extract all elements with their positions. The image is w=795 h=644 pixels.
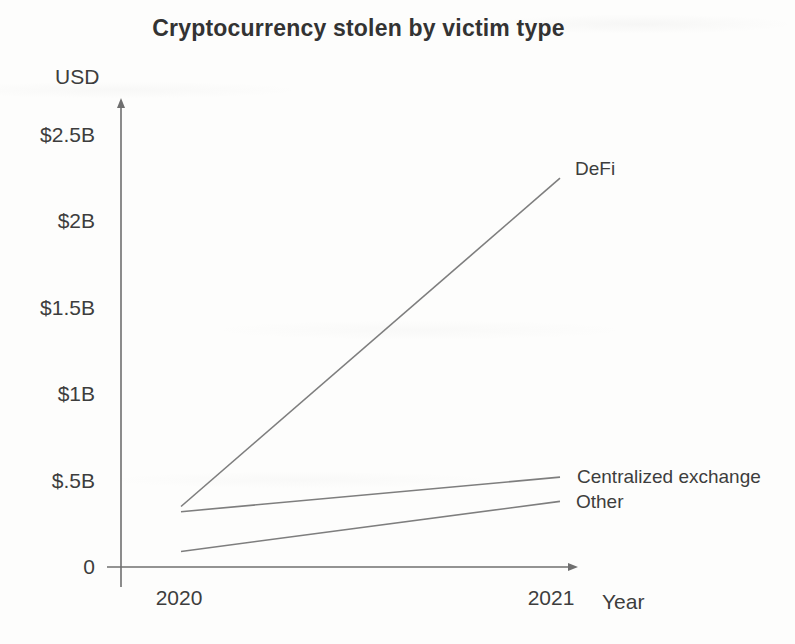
y-tick-label: $1B xyxy=(58,382,95,405)
y-tick-label: $2.5B xyxy=(40,123,95,146)
y-tick-label: $1.5B xyxy=(40,296,95,319)
scanned-chart-page: Cryptocurrency stolen by victim type USD… xyxy=(0,0,795,644)
x-tick-label: 2021 xyxy=(528,586,575,609)
series-label: Centralized exchange xyxy=(577,466,761,487)
series-label: DeFi xyxy=(575,158,615,179)
y-tick-label: $2B xyxy=(58,209,95,232)
x-axis-arrowhead-icon xyxy=(568,563,578,571)
series-line-defi xyxy=(181,178,560,506)
series-label: Other xyxy=(576,491,624,512)
x-tick-label: 2020 xyxy=(156,586,203,609)
y-axis-arrowhead-icon xyxy=(117,98,125,108)
series-line-centralized-exchange xyxy=(181,477,560,512)
y-tick-label: $.5B xyxy=(52,469,95,492)
line-chart-canvas: 0$.5B$1B$1.5B$2B$2.5B20202021DeFiCentral… xyxy=(0,0,795,644)
y-tick-label: 0 xyxy=(83,555,95,578)
series-line-other xyxy=(181,501,560,551)
